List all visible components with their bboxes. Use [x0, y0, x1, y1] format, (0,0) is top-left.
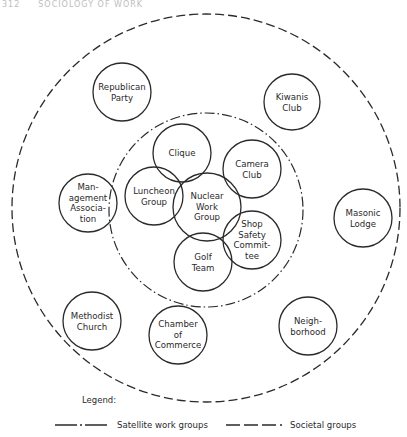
- group-label-golf-team: Golf Team: [172, 252, 234, 273]
- group-label-clique: Clique: [151, 148, 213, 159]
- group-label-methodist-church: Methodist Church: [61, 311, 123, 332]
- legend-item-satellite: Satellite work groups: [55, 420, 208, 430]
- legend-item-societal: Societal groups: [226, 420, 356, 430]
- dash-dot-line-icon: [55, 422, 109, 428]
- legend-title: Legend:: [82, 395, 116, 405]
- group-label-kiwanis-club: Kiwanis Club: [261, 92, 323, 113]
- group-label-masonic-lodge: Masonic Lodge: [332, 208, 394, 229]
- group-label-chamber-of-commerce: Chamber of Commerce: [147, 319, 209, 351]
- group-label-republican-party: Republican Party: [91, 82, 153, 103]
- group-label-neighborhood: Neigh- borhood: [277, 316, 339, 337]
- group-label-camera-club: Camera Club: [221, 159, 283, 180]
- legend-label-satellite: Satellite work groups: [117, 420, 208, 430]
- legend-label-societal: Societal groups: [290, 420, 356, 430]
- dashed-line-icon: [226, 422, 282, 428]
- group-label-management-association: Man- agement Associa- tion: [57, 182, 119, 224]
